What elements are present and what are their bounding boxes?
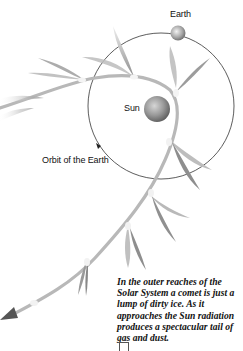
orbit-of-earth-label: Orbit of the Earth [42, 155, 109, 165]
comet-tails [0, 26, 212, 306]
earth-icon [171, 26, 186, 41]
small-box-marker [119, 342, 129, 351]
earth-label: Earth [170, 9, 191, 19]
comet-direction-arrowhead-icon [0, 307, 18, 320]
caption-text: In the outer reaches of the Solar System… [117, 276, 243, 343]
sun-icon [144, 96, 170, 122]
sun-label: Sun [124, 103, 140, 113]
